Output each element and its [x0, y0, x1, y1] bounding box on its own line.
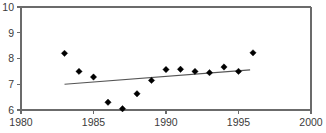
ticks-group	[17, 7, 311, 114]
data-point	[76, 68, 82, 74]
data-point	[90, 74, 96, 80]
data-point	[221, 64, 227, 70]
data-point	[134, 91, 140, 97]
data-point	[61, 50, 67, 56]
data-point	[119, 106, 125, 112]
y-tick-label: 6	[8, 104, 14, 116]
data-point	[206, 69, 212, 75]
x-tick-label: 1985	[82, 116, 106, 128]
data-point	[177, 66, 183, 72]
x-tick-label: 2000	[299, 116, 323, 128]
data-points-group	[61, 50, 256, 112]
x-tick-label: 1990	[154, 116, 178, 128]
data-point	[235, 68, 241, 74]
x-tick-label: 1995	[227, 116, 251, 128]
axes-group	[21, 7, 311, 110]
scatter-chart: 67891019801985199019952000	[0, 0, 326, 133]
tick-labels-group: 67891019801985199019952000	[2, 1, 323, 128]
x-tick-label: 1980	[9, 116, 33, 128]
data-point	[250, 50, 256, 56]
y-tick-label: 9	[8, 27, 14, 39]
y-tick-label: 7	[8, 78, 14, 90]
y-tick-label: 8	[8, 52, 14, 64]
data-point	[105, 99, 111, 105]
y-tick-label: 10	[2, 1, 14, 13]
data-point	[163, 66, 169, 72]
chart-canvas: 67891019801985199019952000	[0, 0, 326, 133]
